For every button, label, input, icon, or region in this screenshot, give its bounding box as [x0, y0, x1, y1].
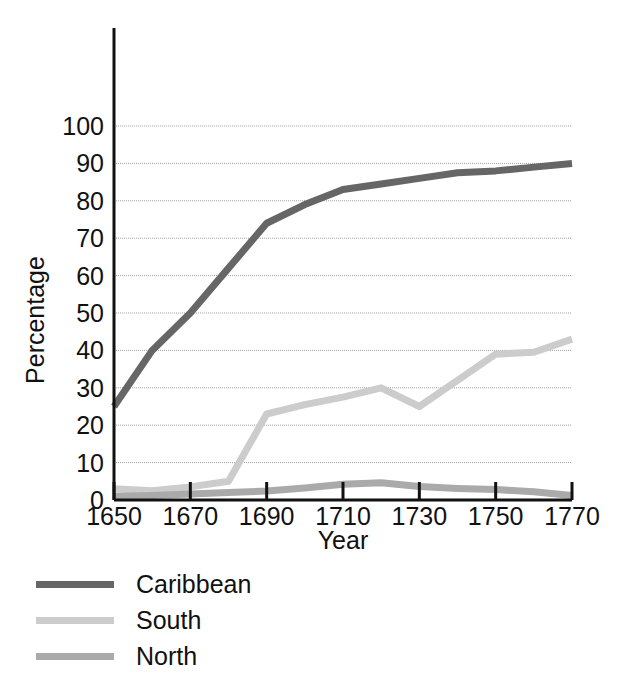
- chart-legend: CaribbeanSouthNorth: [36, 566, 436, 674]
- y-tick-label: 90: [76, 149, 104, 177]
- gridlines: [114, 126, 572, 463]
- y-tick-label: 20: [76, 411, 104, 439]
- y-tick-label: 100: [62, 112, 104, 140]
- x-tick-label: 1750: [468, 502, 524, 530]
- y-tick-label: 70: [76, 224, 104, 252]
- y-tick-label: 80: [76, 187, 104, 215]
- axes: [114, 28, 572, 500]
- y-axis-title: Percentage: [21, 256, 49, 384]
- legend-swatch: [36, 653, 114, 660]
- x-tick-label: 1730: [392, 502, 448, 530]
- y-tick-label: 60: [76, 262, 104, 290]
- legend-label: North: [136, 644, 197, 669]
- legend-label: South: [136, 608, 201, 633]
- legend-item-south: South: [36, 602, 436, 638]
- y-tick-label: 30: [76, 374, 104, 402]
- x-tick-label: 1770: [544, 502, 600, 530]
- line-chart: 0102030405060708090100 16501670169017101…: [0, 0, 624, 560]
- x-axis-title: Year: [318, 526, 369, 554]
- legend-item-caribbean: Caribbean: [36, 566, 436, 602]
- legend-swatch: [36, 617, 114, 624]
- figure: 0102030405060708090100 16501670169017101…: [0, 0, 624, 699]
- chart-plot-area: 0102030405060708090100 16501670169017101…: [0, 0, 624, 560]
- x-tick-label: 1690: [239, 502, 295, 530]
- y-axis-tick-labels: 0102030405060708090100: [62, 112, 104, 514]
- y-tick-label: 50: [76, 299, 104, 327]
- series-line-south: [114, 339, 572, 490]
- x-tick-label: 1670: [163, 502, 219, 530]
- legend-swatch: [36, 581, 114, 588]
- x-tick-label: 1650: [86, 502, 142, 530]
- data-series-group: [114, 163, 572, 496]
- legend-label: Caribbean: [136, 572, 251, 597]
- legend-item-north: North: [36, 638, 436, 674]
- y-tick-label: 10: [76, 449, 104, 477]
- series-line-caribbean: [114, 163, 572, 406]
- y-tick-label: 40: [76, 336, 104, 364]
